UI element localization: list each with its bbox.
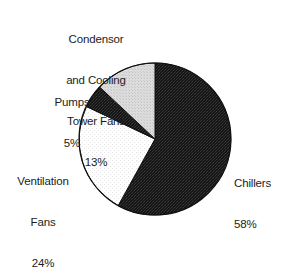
slice-value-chillers: 58% [234, 218, 294, 232]
slice-label-pumps-line1: Pumps [33, 96, 111, 110]
slice-label-ventilation-line2: Fans [2, 216, 84, 230]
slice-value-ventilation: 24% [2, 257, 84, 271]
slice-label-ventilation-line1: Ventilation [2, 175, 84, 189]
slice-label-chillers-line1: Chillers [234, 177, 294, 191]
slice-label-condensor-line1: Condensor [48, 33, 144, 47]
slice-label-chillers: Chillers 58% [234, 150, 294, 259]
slice-label-ventilation-fans: Ventilation Fans 24% [2, 148, 84, 271]
